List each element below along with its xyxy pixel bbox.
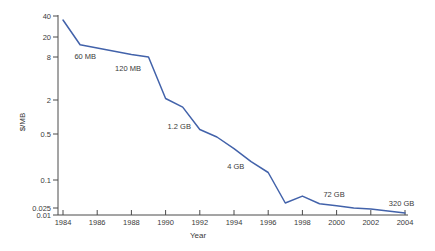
annotation-72-gb: 72 GB: [323, 190, 344, 199]
cost-per-mb-line: [63, 20, 405, 213]
annotation-120-mb: 120 MB: [115, 64, 141, 73]
y-tick-label: 0.01: [36, 211, 51, 220]
x-tick-label: 1984: [55, 218, 72, 227]
capacity-annotations: 60 MB120 MB1.2 GB4 GB72 GB320 GB: [74, 52, 414, 209]
x-axis-ticks: 1984198619881990199219941996199820002002…: [55, 210, 414, 227]
x-tick-label: 1996: [260, 218, 277, 227]
y-tick-label: 2: [47, 96, 51, 105]
annotation-60-mb: 60 MB: [74, 52, 96, 61]
axis-lines: [58, 15, 408, 215]
x-tick-label: 1998: [294, 218, 311, 227]
x-tick-label: 2000: [328, 218, 345, 227]
x-axis-title: Year: [190, 231, 207, 240]
x-tick-label: 2002: [362, 218, 379, 227]
x-tick-label: 1988: [123, 218, 140, 227]
axes: [58, 15, 408, 215]
y-axis-ticks: 4020820.50.10.0250.01: [32, 12, 58, 220]
y-tick-label: 0.1: [41, 176, 51, 185]
y-tick-label: 8: [47, 53, 51, 62]
x-tick-label: 1992: [191, 218, 208, 227]
data-line: [63, 20, 405, 213]
y-axis-title: $/MB: [18, 113, 27, 132]
chart-canvas: 4020820.50.10.0250.01 198419861988199019…: [0, 0, 435, 251]
annotation-1.2-gb: 1.2 GB: [168, 122, 191, 131]
x-tick-label: 2004: [397, 218, 414, 227]
x-tick-label: 1986: [89, 218, 106, 227]
y-tick-label: 40: [43, 12, 51, 21]
x-tick-label: 1994: [226, 218, 243, 227]
annotation-320-gb: 320 GB: [389, 199, 414, 208]
y-tick-label: 0.5: [41, 130, 51, 139]
x-tick-label: 1990: [157, 218, 174, 227]
annotation-4-gb: 4 GB: [227, 162, 244, 171]
y-tick-label: 20: [43, 33, 51, 42]
disk-cost-per-mb-chart: 4020820.50.10.0250.01 198419861988199019…: [0, 0, 435, 251]
